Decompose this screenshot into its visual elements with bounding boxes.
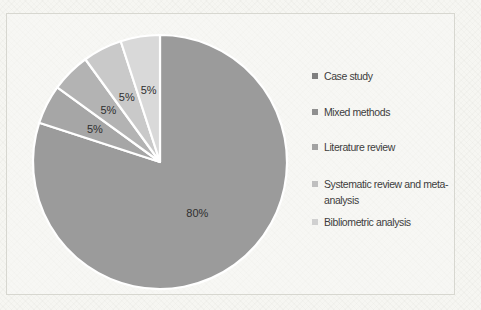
- legend-swatch-case-study-icon: [312, 73, 318, 79]
- slice-label-case-study: 80%: [186, 207, 208, 219]
- legend-swatch-systematic-review-icon: [312, 181, 318, 187]
- slice-label-mixed-methods: 5%: [87, 123, 103, 135]
- slice-label-bibliometric-analysis: 5%: [141, 84, 157, 96]
- legend-label-literature-review: Literature review: [324, 139, 395, 155]
- legend-label-case-study: Case study: [324, 68, 373, 84]
- legend-swatch-literature-review-icon: [312, 144, 318, 150]
- legend-label-systematic-review: Systematic review and meta-analysis: [324, 176, 462, 208]
- legend-swatch-bibliometric-analysis-icon: [312, 219, 318, 225]
- legend-label-bibliometric-analysis: Bibliometric analysis: [324, 214, 411, 230]
- legend-item-systematic-review: Systematic review and meta-analysis: [312, 176, 462, 208]
- slice-label-systematic-review-and-meta-analysis: 5%: [119, 91, 135, 103]
- legend-item-case-study: Case study: [312, 68, 373, 84]
- pie-chart: 80%5%5%5%5%: [0, 0, 481, 310]
- legend-item-mixed-methods: Mixed methods: [312, 104, 390, 120]
- legend-item-literature-review: Literature review: [312, 139, 395, 155]
- legend-item-bibliometric-analysis: Bibliometric analysis: [312, 214, 411, 230]
- legend-label-mixed-methods: Mixed methods: [324, 104, 390, 120]
- slice-label-literature-review: 5%: [100, 104, 116, 116]
- legend-swatch-mixed-methods-icon: [312, 109, 318, 115]
